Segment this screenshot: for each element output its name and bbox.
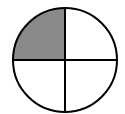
fraction-circle-diagram [0, 0, 125, 114]
